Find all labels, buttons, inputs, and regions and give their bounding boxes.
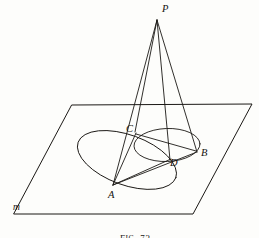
chord-c-b xyxy=(136,134,196,151)
edge-p-a xyxy=(113,20,157,185)
edge-p-c xyxy=(135,20,157,132)
label-point-a: A xyxy=(108,190,114,201)
caption-suffix: . 73 xyxy=(135,233,151,238)
label-point-d: D xyxy=(170,158,178,169)
label-apex-p: P xyxy=(162,4,168,15)
figure-caption: FIG. 73 xyxy=(0,223,259,238)
figure-73-container: P A B C D m FIG. 73 xyxy=(0,0,259,238)
caption-smallcaps: IG xyxy=(125,234,134,238)
geometry-drawing xyxy=(0,0,259,238)
base-circle-ellipse xyxy=(133,127,200,162)
label-point-b: B xyxy=(201,148,207,159)
label-point-c: C xyxy=(126,124,133,135)
label-plane-m: m xyxy=(13,203,20,213)
plane-parallelogram xyxy=(14,104,252,214)
